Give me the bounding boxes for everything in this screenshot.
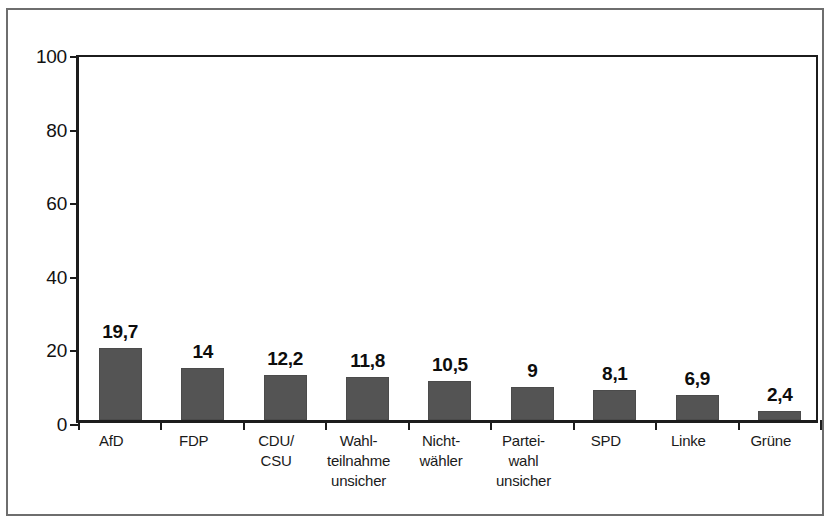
y-axis-tick-label: 80 bbox=[46, 120, 67, 142]
x-axis-tick-mark bbox=[78, 420, 80, 430]
x-axis-category-line: wahl bbox=[482, 451, 564, 471]
x-axis-category-line: teilnahme bbox=[317, 451, 399, 471]
bar bbox=[181, 368, 224, 420]
bar-group: 10,5 bbox=[409, 57, 491, 420]
bar-value-label: 19,7 bbox=[102, 321, 138, 343]
x-axis-category-line: SPD bbox=[565, 431, 647, 451]
x-axis-category-label: SPD bbox=[565, 431, 647, 451]
y-axis-tick-label: 100 bbox=[36, 46, 67, 68]
y-axis-tick-label: 40 bbox=[46, 267, 67, 289]
x-axis-category-line: Partei- bbox=[482, 431, 564, 451]
y-axis-tick-mark bbox=[70, 203, 79, 205]
plot-area: 020406080100 19,71412,211,810,598,16,92,… bbox=[76, 55, 818, 423]
x-axis-tick-mark bbox=[408, 420, 410, 430]
x-axis-category-line: wähler bbox=[400, 451, 482, 471]
bar-value-label: 6,9 bbox=[685, 368, 711, 390]
x-axis-category-label: CDU/CSU bbox=[235, 431, 317, 471]
y-axis-tick-label: 0 bbox=[57, 414, 67, 436]
x-axis-category-label: AfD bbox=[70, 431, 152, 451]
y-axis-tick-label: 20 bbox=[46, 340, 67, 362]
x-axis-tick-mark bbox=[325, 420, 327, 430]
x-axis-category-line: Nicht- bbox=[400, 431, 482, 451]
bar bbox=[264, 375, 307, 420]
x-axis-category-label: Wahl-teilnahmeunsicher bbox=[317, 431, 399, 490]
bar bbox=[758, 411, 801, 420]
bar-group: 14 bbox=[161, 57, 243, 420]
x-axis-tick-mark bbox=[160, 420, 162, 430]
x-axis-category-line: FDP bbox=[152, 431, 234, 451]
bar-value-label: 14 bbox=[192, 341, 213, 363]
x-axis-category-label: Linke bbox=[647, 431, 729, 451]
x-axis-tick-mark bbox=[820, 420, 822, 430]
x-axis-category-line: Grüne bbox=[730, 431, 812, 451]
x-axis-category-line: AfD bbox=[70, 431, 152, 451]
x-axis-category-line: unsicher bbox=[317, 471, 399, 491]
x-axis-tick-mark bbox=[655, 420, 657, 430]
bar-value-label: 8,1 bbox=[602, 363, 628, 385]
bar-group: 6,9 bbox=[656, 57, 738, 420]
y-axis-tick-mark bbox=[70, 350, 79, 352]
bar-value-label: 11,8 bbox=[350, 350, 385, 372]
bar-group: 2,4 bbox=[739, 57, 821, 420]
x-axis-tick-mark bbox=[490, 420, 492, 430]
figure-border: 020406080100 19,71412,211,810,598,16,92,… bbox=[6, 8, 824, 516]
bar-value-label: 9 bbox=[527, 360, 537, 382]
x-axis-category-line: Linke bbox=[647, 431, 729, 451]
bar bbox=[346, 377, 389, 420]
x-axis-category-label: FDP bbox=[152, 431, 234, 451]
bar-group: 12,2 bbox=[244, 57, 326, 420]
bar-value-label: 10,5 bbox=[432, 354, 468, 376]
bar bbox=[676, 395, 719, 420]
x-axis-category-line: CDU/ bbox=[235, 431, 317, 451]
x-axis-tick-mark bbox=[243, 420, 245, 430]
x-axis-category-line: Wahl- bbox=[317, 431, 399, 451]
y-axis-tick-label: 60 bbox=[46, 193, 67, 215]
bar-value-label: 12,2 bbox=[267, 348, 303, 370]
bar-value-label: 2,4 bbox=[767, 384, 793, 406]
bar bbox=[99, 348, 142, 420]
x-axis-tick-mark bbox=[738, 420, 740, 430]
x-axis-tick-mark bbox=[573, 420, 575, 430]
x-axis-category-line: CSU bbox=[235, 451, 317, 471]
bar bbox=[593, 390, 636, 420]
x-axis-category-label: Nicht-wähler bbox=[400, 431, 482, 471]
bar-group: 19,7 bbox=[79, 57, 161, 420]
y-axis-tick-mark bbox=[70, 130, 79, 132]
x-axis-category-label: Grüne bbox=[730, 431, 812, 451]
bar-group: 11,8 bbox=[326, 57, 408, 420]
bar bbox=[511, 387, 554, 420]
y-axis-tick-mark bbox=[70, 277, 79, 279]
y-axis-tick-mark bbox=[70, 56, 79, 58]
bar bbox=[428, 381, 471, 420]
bar-group: 9 bbox=[491, 57, 573, 420]
x-axis-category-label: Partei-wahlunsicher bbox=[482, 431, 564, 490]
bar-group: 8,1 bbox=[574, 57, 656, 420]
x-axis-category-line: unsicher bbox=[482, 471, 564, 491]
